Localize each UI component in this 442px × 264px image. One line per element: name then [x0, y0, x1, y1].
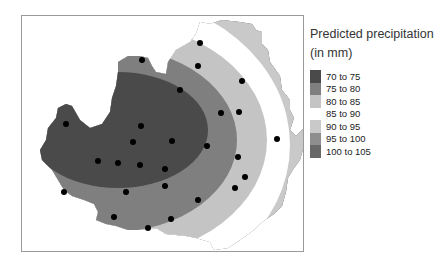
legend-title: Predicted precipitation — [310, 25, 442, 44]
station-dot — [274, 136, 280, 142]
legend-label: 100 to 105 — [326, 146, 371, 157]
legend-swatch — [310, 120, 321, 133]
legend-label: 85 to 90 — [326, 108, 360, 119]
station-dot — [204, 143, 210, 149]
legend-swatch — [310, 95, 321, 108]
station-dot — [123, 189, 129, 195]
legend-item: 75 to 80 — [310, 83, 442, 96]
station-dot — [236, 109, 242, 115]
legend: Predicted precipitation (in mm) 70 to 75… — [310, 25, 442, 158]
legend-label: 80 to 85 — [326, 96, 360, 107]
legend-swatch — [310, 133, 321, 146]
station-dot — [61, 189, 67, 195]
station-dot — [138, 123, 144, 129]
legend-swatch — [310, 83, 321, 96]
station-dot — [63, 121, 69, 127]
legend-label: 70 to 75 — [326, 71, 360, 82]
station-dot — [95, 158, 101, 164]
legend-subtitle: (in mm) — [310, 44, 442, 63]
legend-swatch — [310, 70, 321, 83]
legend-label: 95 to 100 — [326, 133, 366, 144]
station-dot — [145, 225, 151, 231]
station-dot — [239, 78, 245, 84]
station-dot — [137, 162, 143, 168]
station-dot — [177, 87, 183, 93]
station-dot — [162, 183, 168, 189]
station-dot — [195, 197, 201, 203]
legend-items: 70 to 75 75 to 80 80 to 85 85 to 90 90 t… — [310, 70, 442, 158]
station-dot — [232, 185, 238, 191]
legend-swatch — [310, 145, 321, 158]
legend-swatch — [310, 108, 321, 121]
legend-item: 80 to 85 — [310, 95, 442, 108]
station-dot — [218, 110, 224, 116]
legend-item: 85 to 90 — [310, 108, 442, 121]
station-dot — [115, 160, 121, 166]
station-dot — [195, 63, 201, 69]
legend-label: 75 to 80 — [326, 83, 360, 94]
station-dot — [242, 174, 248, 180]
legend-label: 90 to 95 — [326, 121, 360, 132]
station-dot — [197, 40, 203, 46]
legend-item: 95 to 100 — [310, 133, 442, 146]
legend-item: 70 to 75 — [310, 70, 442, 83]
station-dot — [162, 166, 168, 172]
station-dot — [168, 216, 174, 222]
legend-item: 100 to 105 — [310, 145, 442, 158]
legend-item: 90 to 95 — [310, 120, 442, 133]
station-dot — [169, 138, 175, 144]
station-dot — [235, 154, 241, 160]
precipitation-map — [21, 15, 304, 252]
station-dot — [139, 57, 145, 63]
station-dot — [111, 214, 117, 220]
map-frame — [21, 15, 304, 252]
station-dot — [130, 139, 136, 145]
